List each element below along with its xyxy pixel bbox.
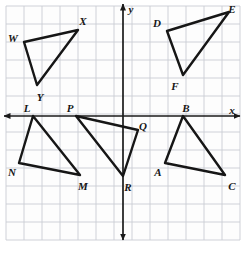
vertex-label-c: C (228, 181, 235, 192)
vertex-label-w: W (8, 33, 18, 44)
vertex-label-y: Y (37, 92, 44, 103)
vertex-label-b: B (182, 103, 189, 114)
vertex-label-f: F (171, 81, 178, 92)
coordinate-plane-figure: WXYDEFLMNPQRABCxy (0, 0, 246, 256)
vertex-label-a: A (154, 167, 161, 178)
vertex-label-n: N (8, 167, 16, 178)
figure-canvas (0, 0, 246, 256)
vertex-label-r: R (124, 182, 131, 193)
vertex-label-p: P (67, 103, 74, 114)
vertex-label-d: D (153, 18, 161, 29)
vertex-label-m: M (78, 181, 88, 192)
vertex-label-x: X (79, 16, 86, 27)
y-axis-label: y (129, 4, 134, 15)
vertex-label-q: Q (139, 121, 147, 132)
x-axis-label: x (229, 105, 235, 116)
vertex-label-e: E (228, 4, 235, 15)
vertex-label-l: L (24, 103, 31, 114)
